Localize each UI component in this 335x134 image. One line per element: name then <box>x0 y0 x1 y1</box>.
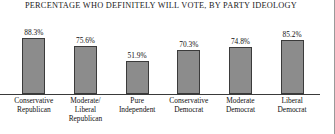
bar-group-pure-independent: 51.9% <box>113 20 161 94</box>
category-label-line: Democrat <box>267 105 317 114</box>
category-label-line: Moderate <box>215 96 265 105</box>
category-label-line: Republican <box>60 114 110 123</box>
bar-rect <box>229 47 252 94</box>
category-label-line: Liberal <box>60 105 110 114</box>
bars-container: 88.3% 75.6% 51.9% 70.3% 74.8% 85.2% <box>8 20 318 94</box>
category-label-line: Conservative <box>164 96 214 105</box>
category-labels-row: Conservative Republican Moderate/ Libera… <box>8 96 318 124</box>
category-label-line: Pure <box>112 96 162 105</box>
category-label-liberal-democrat: Liberal Democrat <box>267 96 317 114</box>
category-label-line: Conservative <box>9 96 59 105</box>
category-label-pure-independent: Pure Independent <box>112 96 162 114</box>
category-label-line: Liberal <box>267 96 317 105</box>
bar-rect <box>177 50 200 94</box>
category-label-moderate-liberal-republican: Moderate/ Liberal Republican <box>60 96 110 124</box>
bar-value-label: 88.3% <box>24 28 43 37</box>
bar-value-label: 70.3% <box>179 40 198 49</box>
category-label-line: Moderate/ <box>60 96 110 105</box>
bar-group-conservative-republican: 88.3% <box>10 20 58 94</box>
category-label-conservative-republican: Conservative Republican <box>9 96 59 114</box>
category-label-moderate-democrat: Moderate Democrat <box>215 96 265 114</box>
bar-group-conservative-democrat: 70.3% <box>165 20 213 94</box>
plot-area: 88.3% 75.6% 51.9% 70.3% 74.8% 85.2% <box>8 20 318 94</box>
bar-value-label: 51.9% <box>128 51 147 60</box>
bar-value-label: 85.2% <box>283 30 302 39</box>
bar-value-label: 75.6% <box>76 36 95 45</box>
bar-rect <box>126 61 149 94</box>
bar-group-moderate-democrat: 74.8% <box>216 20 264 94</box>
bar-value-label: 74.8% <box>231 37 250 46</box>
category-label-line: Democrat <box>164 105 214 114</box>
category-label-line: Democrat <box>215 105 265 114</box>
bar-rect <box>22 38 45 94</box>
category-label-line: Republican <box>9 105 59 114</box>
bar-group-moderate-liberal-republican: 75.6% <box>61 20 109 94</box>
chart-title: PERCENTAGE WHO DEFINITELY WILL VOTE, BY … <box>0 1 322 10</box>
bar-rect <box>74 46 97 94</box>
bar-group-liberal-democrat: 85.2% <box>268 20 316 94</box>
bar-rect <box>281 40 304 94</box>
category-label-conservative-democrat: Conservative Democrat <box>164 96 214 114</box>
x-axis-baseline <box>0 94 320 95</box>
category-label-line: Independent <box>112 105 162 114</box>
bar-chart-figure: PERCENTAGE WHO DEFINITELY WILL VOTE, BY … <box>0 0 335 134</box>
